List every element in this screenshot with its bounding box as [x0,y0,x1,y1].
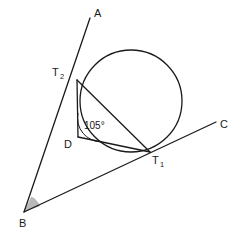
point-label-t2: T 2 [52,66,64,81]
point-label-t1: T 1 [152,154,164,169]
point-label-t1-subscript: 1 [160,160,164,169]
point-label-b: B [19,217,26,229]
point-label-t2-base: T [52,66,59,78]
geometry-figure: 105° A B C D T 1 T 2 [0,0,238,238]
chord-t2-t1 [77,80,150,152]
ray-ba-tangent-line [24,18,90,212]
ray-bc-tangent-line [24,122,216,212]
chord-t2-d [77,80,78,137]
angle-label-105: 105° [84,120,105,131]
circle [80,50,182,152]
point-label-t2-subscript: 2 [60,72,64,81]
point-label-d: D [64,138,72,150]
point-label-a: A [94,7,102,19]
point-label-t1-base: T [152,154,159,166]
geometry-canvas: 105° A B C D T 1 T 2 [0,0,238,238]
point-label-c: C [220,118,228,130]
